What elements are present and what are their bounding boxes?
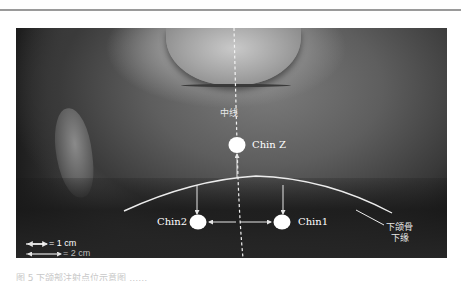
- top-rule: [0, 9, 461, 11]
- point-chin-z: [229, 137, 246, 153]
- figure-photo: 中线 Chin Z Chin2 Chin1 下颌骨 下缘 = 1 cm = 2 …: [16, 28, 447, 258]
- point-chin-2: [190, 215, 207, 230]
- mandible-border-label-line2: 下缘: [386, 233, 413, 244]
- mandible-border-label: 下颌骨 下缘: [386, 222, 413, 244]
- chin-2-label: Chin2: [157, 216, 187, 227]
- midline-label: 中线: [220, 108, 238, 119]
- chin-1-label: Chin1: [298, 216, 328, 227]
- chin-z-label: Chin Z: [252, 139, 286, 150]
- figure-caption: 图 5 下颌部注射点位示意图 ……: [16, 271, 436, 281]
- legend-row-2cm: = 2 cm: [25, 248, 90, 258]
- mandible-border-label-line1: 下颌骨: [386, 222, 413, 233]
- legend-2cm-text: = 2 cm: [63, 248, 90, 258]
- legend-1cm-text: = 1 cm: [49, 238, 76, 248]
- point-chin-1: [274, 215, 291, 230]
- mandible-border-curve: [124, 176, 392, 213]
- annotation-overlay: [16, 28, 447, 258]
- scale-legend: = 1 cm = 2 cm: [25, 238, 90, 258]
- legend-row-1cm: = 1 cm: [25, 238, 90, 248]
